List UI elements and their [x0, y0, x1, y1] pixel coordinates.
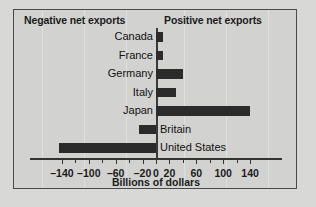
bar-row: United States — [14, 139, 298, 158]
axis-tick-label: 60 — [190, 167, 202, 179]
bar-row: France — [14, 47, 298, 66]
bar — [156, 69, 183, 79]
category-label: Canada — [114, 29, 153, 44]
axis-tick-label: –100 — [77, 167, 100, 179]
negative-net-exports-header: Negative net exports — [24, 14, 125, 26]
axis-tick-label: 100 — [214, 167, 232, 179]
axis-tick-minor — [210, 158, 211, 163]
axis-tick-label: –60 — [107, 167, 125, 179]
bar-row: Canada — [14, 28, 298, 47]
bar-row: Japan — [14, 102, 298, 121]
axis-tick-label: 20 — [164, 167, 176, 179]
axis-tick — [143, 158, 144, 164]
bar — [59, 143, 156, 153]
bar-row: Italy — [14, 84, 298, 103]
category-label: United States — [160, 140, 226, 155]
chart-container: Negative net exports Positive net export… — [13, 9, 297, 189]
axis-tick-minor — [237, 158, 238, 163]
category-label: Britain — [160, 122, 191, 137]
bar — [156, 88, 176, 98]
category-label: Italy — [133, 85, 153, 100]
axis-tick-minor — [183, 158, 184, 163]
bar — [156, 51, 163, 61]
axis-tick-label: –140 — [50, 167, 73, 179]
axis-tick-minor — [129, 158, 130, 163]
bar — [156, 106, 250, 116]
axis-tick-label: 0 — [153, 167, 159, 179]
plot-area: CanadaFranceGermanyItalyJapanBritainUnit… — [14, 28, 298, 158]
axis-tick — [89, 158, 90, 164]
axis-tick-minor — [75, 158, 76, 163]
axis-tick — [223, 158, 224, 164]
axis-tick-minor — [102, 158, 103, 163]
axis-tick — [116, 158, 117, 164]
axis-tick-label: 140 — [241, 167, 259, 179]
axis-tick — [169, 158, 170, 164]
category-label: Germany — [108, 66, 153, 81]
category-label: France — [119, 48, 153, 63]
axis-tick — [250, 158, 251, 164]
category-label: Japan — [123, 103, 153, 118]
bar-row: Britain — [14, 121, 298, 140]
bar — [156, 32, 163, 42]
axis-tick — [196, 158, 197, 164]
bar — [139, 125, 156, 135]
axis-tick — [156, 158, 157, 164]
positive-net-exports-header: Positive net exports — [164, 14, 262, 26]
axis-tick — [62, 158, 63, 164]
axis-tick-label: –20 — [134, 167, 152, 179]
bar-row: Germany — [14, 65, 298, 84]
